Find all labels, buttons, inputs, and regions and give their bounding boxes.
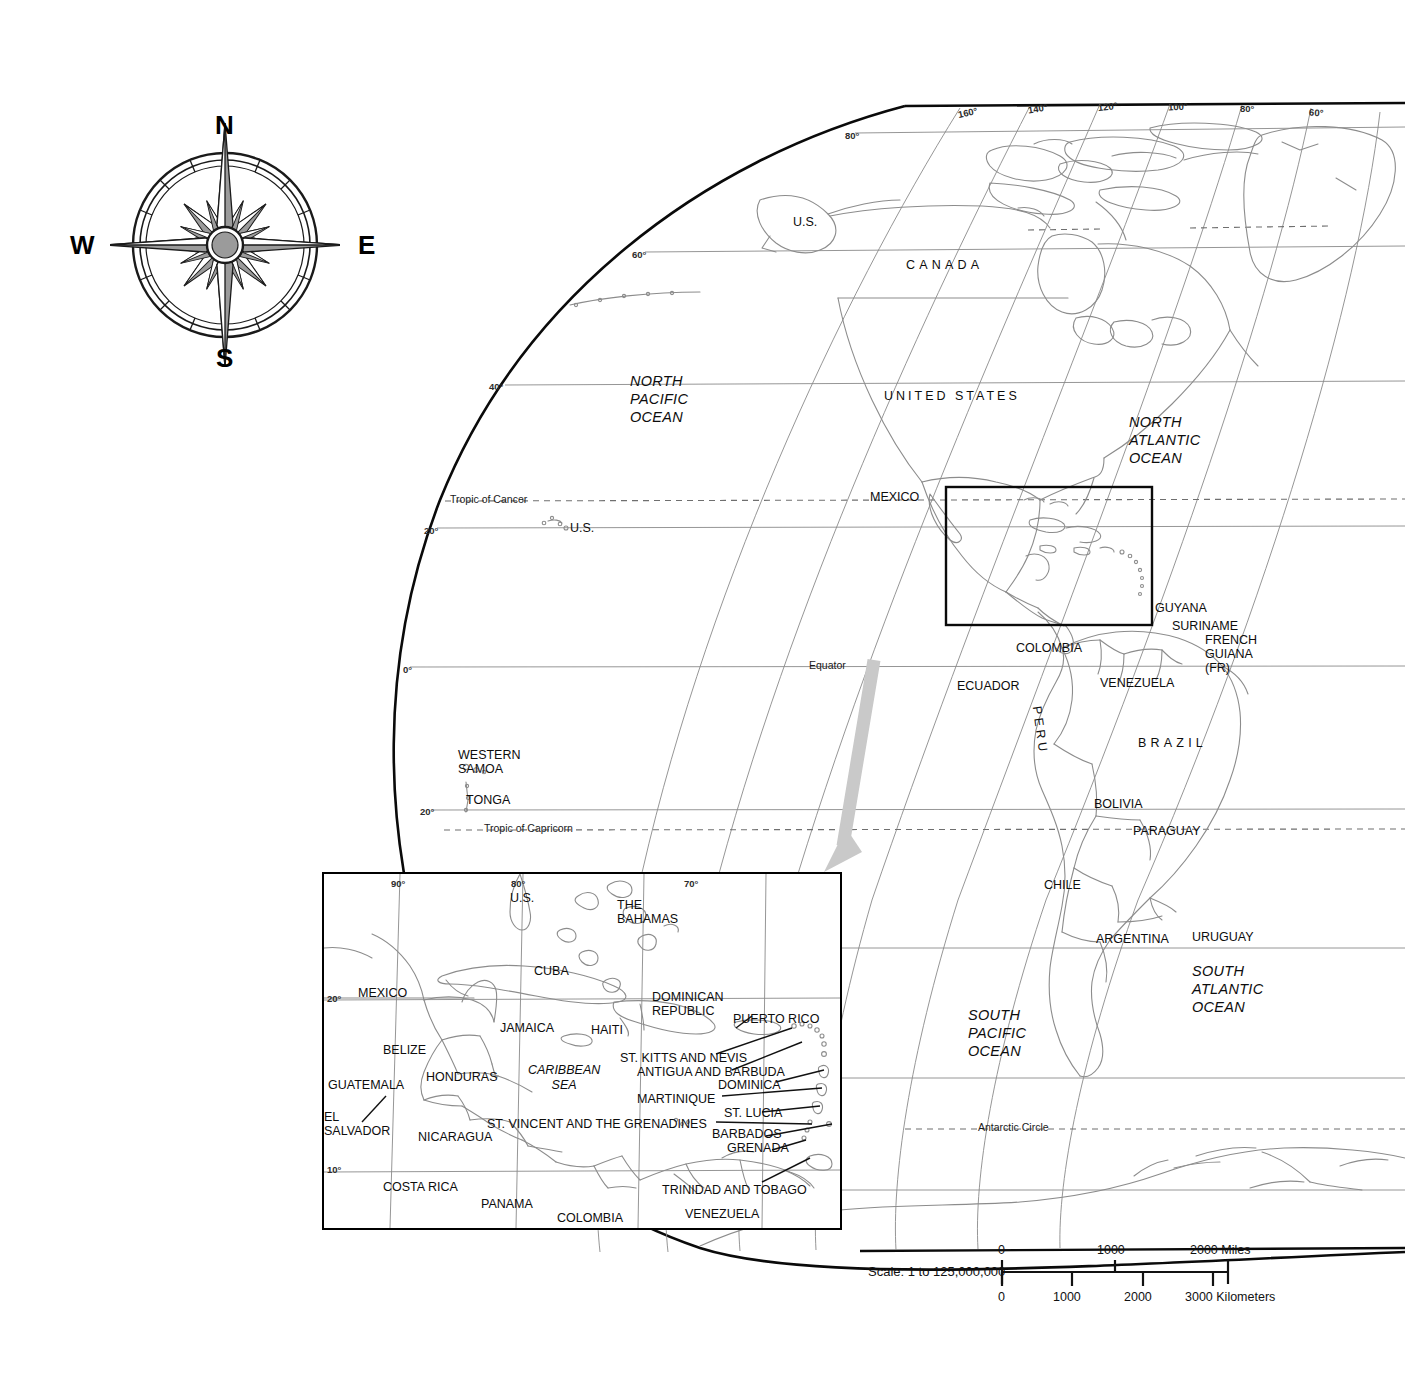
scale-miles-tick-1000: 1000 [1097, 1243, 1125, 1257]
inset-pointer-arrow [824, 660, 874, 872]
inset-label-dominica: DOMINICA [718, 1078, 781, 1092]
inset-label-st-lucia: ST. LUCIA [724, 1106, 782, 1120]
label-western-samoa: WESTERN SAMOA [458, 748, 521, 776]
inset-label-guatemala: GUATEMALA [328, 1078, 404, 1092]
inset-lat-label-20: 20° [327, 994, 341, 1005]
lat-label-40n: 40° [489, 382, 503, 393]
scale-bar-graphic [1002, 1260, 1228, 1286]
scale-km-tick-2000: 2000 [1124, 1290, 1152, 1304]
inset-lat-label-10: 10° [327, 1165, 341, 1176]
scale-label: Scale: 1 to 125,000,000 [868, 1264, 1005, 1279]
inset-label-dominican-republic: DOMINICAN REPUBLIC [652, 990, 724, 1018]
inset-label-jamaica: JAMAICA [500, 1021, 554, 1035]
scale-km-tick-0: 0 [998, 1290, 1005, 1304]
inset-label-antigua-barbuda: ANTIGUA AND BARBUDA [637, 1065, 785, 1079]
map-page: N S W E [0, 0, 1405, 1383]
label-united-states: UNITED STATES [884, 389, 1020, 403]
label-ecuador: ECUADOR [957, 679, 1020, 693]
label-argentina: ARGENTINA [1096, 932, 1169, 946]
inset-label-nicaragua: NICARAGUA [418, 1130, 492, 1144]
inset-label-costa-rica: COSTA RICA [383, 1180, 458, 1194]
lon-label-100: 100° [1168, 101, 1188, 113]
ocean-label-south-pacific: SOUTH PACIFIC OCEAN [968, 1006, 1026, 1060]
inset-label-belize: BELIZE [383, 1043, 426, 1057]
lon-label-60: 60° [1309, 108, 1324, 119]
ocean-line: OCEAN [1192, 998, 1263, 1016]
antarctic-circle-label: Antarctic Circle [978, 1122, 1049, 1134]
inset-label-cuba: CUBA [534, 964, 569, 978]
ocean-label-north-atlantic: NORTH ATLANTIC OCEAN [1129, 413, 1200, 467]
ocean-label-south-atlantic: SOUTH ATLANTIC OCEAN [1192, 962, 1263, 1016]
lat-label-0: 0° [403, 665, 412, 676]
label-guyana: GUYANA [1155, 601, 1207, 615]
tropic-of-cancer-line [445, 499, 1405, 501]
tropic-of-cancer-label: Tropic of Cancer [450, 494, 527, 506]
label-venezuela: VENEZUELA [1100, 676, 1174, 690]
lat-label-20s: 20° [420, 807, 434, 818]
tropic-of-capricorn-label: Tropic of Capricorn [484, 823, 573, 835]
label-tonga: TONGA [466, 793, 510, 807]
inset-label-panama: PANAMA [481, 1197, 533, 1211]
label-brazil: BRAZIL [1138, 736, 1207, 750]
inset-label-trinidad-tobago: TRINIDAD AND TOBAGO [662, 1183, 807, 1197]
label-suriname: SURINAME [1172, 619, 1238, 633]
lat-label-80n: 80° [845, 131, 859, 142]
tropic-of-capricorn-line [444, 829, 1405, 830]
ocean-line: SOUTH [968, 1006, 1026, 1024]
label-canada: CANADA [906, 258, 983, 272]
ocean-label-north-pacific: NORTH PACIFIC OCEAN [630, 372, 688, 426]
label-uruguay: URUGUAY [1192, 930, 1254, 944]
inset-label-us: U.S. [510, 891, 534, 905]
inset-label-barbados: BARBADOS [712, 1127, 781, 1141]
label-us-hawaii: U.S. [570, 521, 594, 535]
scale-miles-label: 2000 Miles [1190, 1243, 1250, 1257]
ocean-line: ATLANTIC [1192, 980, 1263, 998]
ocean-line: PACIFIC [630, 390, 688, 408]
label-paraguay: PARAGUAY [1133, 824, 1201, 838]
scale-km-tick-1000: 1000 [1053, 1290, 1081, 1304]
inset-label-el-salvador: EL SALVADOR [324, 1110, 390, 1138]
ocean-line: NORTH [630, 372, 688, 390]
inset-label-grenada: GRENADA [727, 1141, 789, 1155]
ocean-line: OCEAN [630, 408, 688, 426]
lat-label-60n: 60° [632, 250, 646, 261]
scale-km-label: 3000 Kilometers [1185, 1290, 1275, 1304]
lon-label-120: 120° [1097, 101, 1118, 114]
inset-label-the-bahamas: THE BAHAMAS [617, 898, 678, 926]
inset-label-st-kitts-nevis: ST. KITTS AND NEVIS [620, 1051, 747, 1065]
label-bolivia: BOLIVIA [1094, 797, 1143, 811]
label-chile: CHILE [1044, 878, 1081, 892]
ocean-line: PACIFIC [968, 1024, 1026, 1042]
inset-label-colombia: COLOMBIA [557, 1211, 623, 1225]
inset-label-martinique: MARTINIQUE [637, 1092, 715, 1106]
ocean-line: OCEAN [1129, 449, 1200, 467]
inset-label-mexico: MEXICO [358, 986, 407, 1000]
inset-leader-lines [362, 1016, 832, 1182]
equator-label: Equator [809, 660, 846, 672]
ocean-line: NORTH [1129, 413, 1200, 431]
inset-lon-label-70: 70° [684, 879, 698, 890]
label-colombia: COLOMBIA [1016, 641, 1082, 655]
inset-lon-label-80: 80° [511, 879, 525, 890]
inset-label-caribbean-sea: CARIBBEAN SEA [528, 1063, 600, 1093]
inset-label-haiti: HAITI [591, 1023, 623, 1037]
inset-label-st-vincent: ST. VINCENT AND THE GRENADINES [487, 1117, 707, 1131]
ocean-line: SOUTH [1192, 962, 1263, 980]
lat-label-20n: 20° [424, 526, 438, 537]
inset-source-box [946, 487, 1152, 625]
scale-miles-tick-0: 0 [998, 1243, 1005, 1257]
inset-label-venezuela: VENEZUELA [685, 1207, 759, 1221]
label-mexico: MEXICO [870, 490, 919, 504]
ocean-line: ATLANTIC [1129, 431, 1200, 449]
arctic-dashed-segment [1190, 226, 1330, 228]
ocean-line: OCEAN [968, 1042, 1026, 1060]
inset-label-puerto-rico: PUERTO RICO [733, 1012, 819, 1026]
inset-label-honduras: HONDURAS [426, 1070, 498, 1084]
lon-label-80: 80° [1240, 104, 1254, 115]
arctic-dashed-segment-2 [1028, 229, 1100, 230]
inset-lon-label-90: 90° [391, 879, 405, 890]
label-us-alaska: U.S. [793, 215, 817, 229]
label-french-guiana: FRENCH GUIANA (FR) [1205, 633, 1257, 675]
